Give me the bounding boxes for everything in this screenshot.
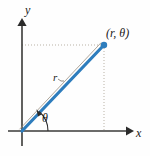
polar-diagram-canvas: y x (r, θ) r θ [0,0,150,156]
polar-coordinate-figure: y x (r, θ) r θ [0,0,150,156]
point-marker [101,42,107,48]
y-axis-label: y [24,3,31,17]
radius-label: r [53,71,58,83]
x-axis-label: x [135,126,142,140]
point-coordinate-label: (r, θ) [106,26,129,40]
angle-label: θ [42,111,48,125]
